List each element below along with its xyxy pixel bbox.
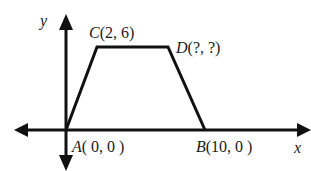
trapezoid-outline bbox=[66, 47, 205, 130]
y-axis-label: y bbox=[40, 13, 47, 29]
point-a-coords: ( 0, 0 ) bbox=[82, 138, 125, 155]
x-axis-right-arrow-icon bbox=[297, 123, 311, 137]
point-c-coords: (2, 6) bbox=[100, 24, 135, 41]
x-axis-left-arrow-icon bbox=[14, 123, 28, 137]
point-c-name: C bbox=[89, 24, 100, 41]
point-d-label: D(?, ?) bbox=[176, 40, 220, 56]
y-axis-up-arrow-icon bbox=[59, 14, 73, 30]
y-axis-down-arrow-icon bbox=[59, 155, 73, 171]
point-b-coords: (10, 0 ) bbox=[206, 138, 253, 155]
y-axis bbox=[59, 14, 73, 171]
point-a-name: A bbox=[72, 138, 82, 155]
diagram-canvas: y x C(2, 6) D(?, ?) A( 0, 0 ) B(10, 0 ) bbox=[0, 0, 311, 171]
point-a-label: A( 0, 0 ) bbox=[72, 139, 124, 155]
x-axis bbox=[14, 123, 311, 137]
point-b-label: B(10, 0 ) bbox=[196, 139, 252, 155]
point-c-label: C(2, 6) bbox=[89, 25, 134, 41]
point-d-coords: (?, ?) bbox=[188, 39, 221, 56]
point-b-name: B bbox=[196, 138, 206, 155]
point-d-name: D bbox=[176, 39, 188, 56]
x-axis-label: x bbox=[294, 140, 301, 156]
